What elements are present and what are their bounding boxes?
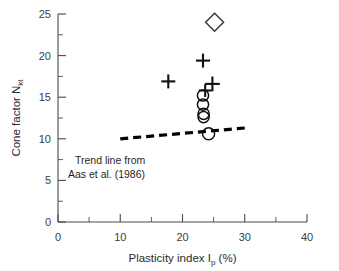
annotations-group: Trend line from Aas et al. (1986) xyxy=(68,154,145,180)
trend-line-group xyxy=(120,128,245,139)
y-axis-title-main: Cone factor N xyxy=(10,86,22,157)
x-tick-label-0: 0 xyxy=(55,231,61,243)
y-tick-label-25: 25 xyxy=(39,8,51,20)
x-axis-title-unit: (%) xyxy=(215,252,236,264)
data-point-diamond xyxy=(206,13,224,31)
y-axis-ticks xyxy=(58,14,66,222)
y-tick-label-5: 5 xyxy=(45,174,51,186)
y-tick-label-15: 15 xyxy=(39,91,51,103)
svg-text:Cone factor Nkt: Cone factor Nkt xyxy=(10,79,25,157)
annotation-trend-line-2: Aas et al. (1986) xyxy=(68,168,145,180)
y-axis-title: Cone factor Nkt xyxy=(10,79,25,157)
data-point-plus xyxy=(205,77,220,92)
x-axis-title-main: Plasticity index I xyxy=(129,252,211,264)
annotation-trend-line-1: Trend line from xyxy=(75,154,145,166)
axes-group xyxy=(58,14,307,222)
x-tick-label-20: 20 xyxy=(176,231,188,243)
x-axis-ticks xyxy=(58,214,307,222)
data-point-plus xyxy=(161,74,175,88)
y-tick-label-10: 10 xyxy=(39,133,51,145)
scatter-plot: 0 5 10 15 20 25 0 10 20 30 40 xyxy=(0,0,339,271)
data-point-circle xyxy=(203,128,215,140)
x-tick-label-40: 40 xyxy=(301,231,313,243)
diamond-marker-series xyxy=(206,13,224,31)
svg-text:Plasticity index Ip (%): Plasticity index Ip (%) xyxy=(129,252,237,267)
data-point-plus xyxy=(196,54,210,68)
y-axis-tick-labels: 0 5 10 15 20 25 xyxy=(39,8,51,228)
y-tick-label-0: 0 xyxy=(45,216,51,228)
x-axis-title: Plasticity index Ip (%) xyxy=(129,252,237,267)
x-tick-label-30: 30 xyxy=(239,231,251,243)
x-axis-tick-labels: 0 10 20 30 40 xyxy=(55,231,313,243)
data-markers-group xyxy=(161,13,223,140)
chart-container: 0 5 10 15 20 25 0 10 20 30 40 xyxy=(0,0,339,271)
y-tick-label-20: 20 xyxy=(39,50,51,62)
plus-marker-series xyxy=(161,54,220,97)
trend-line xyxy=(120,128,245,139)
y-axis-title-subscript: kt xyxy=(16,79,25,86)
x-tick-label-10: 10 xyxy=(114,231,126,243)
